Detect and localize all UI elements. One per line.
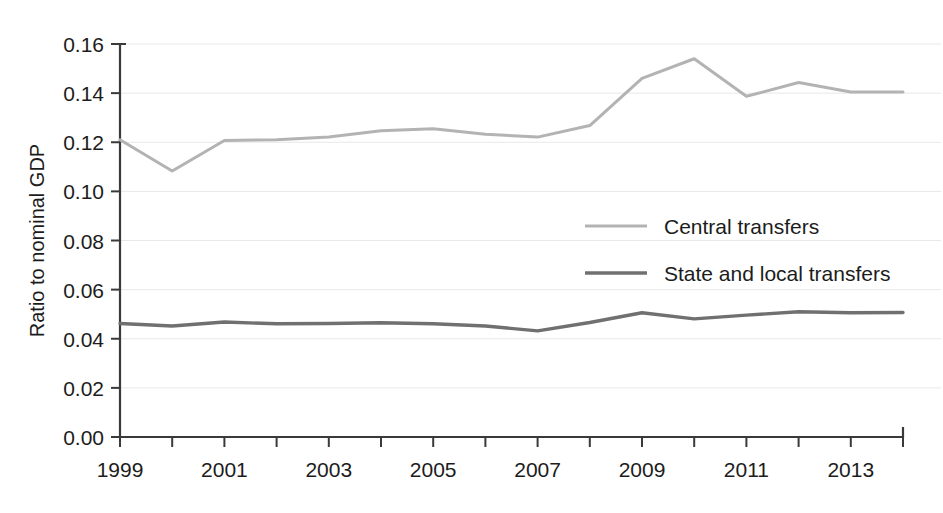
y-axis-title-text: Ratio to nominal GDP — [26, 144, 48, 337]
x-tick-label: 2009 — [619, 458, 666, 481]
series-line-central-transfers — [120, 59, 903, 171]
chart-legend: Central transfersState and local transfe… — [585, 215, 890, 285]
y-tick-label: 0.10 — [63, 180, 104, 203]
y-axis-title: Ratio to nominal GDP — [26, 144, 48, 337]
x-tick-label: 2013 — [827, 458, 874, 481]
y-tick-label: 0.04 — [63, 328, 104, 351]
y-tick-label: 0.06 — [63, 279, 104, 302]
y-tick-label: 0.12 — [63, 131, 104, 154]
chart-figure: 0.000.020.040.060.080.100.120.140.16 199… — [0, 0, 943, 513]
y-axis-tick-labels: 0.000.020.040.060.080.100.120.140.16 — [63, 33, 104, 449]
y-tick-label: 0.16 — [63, 33, 104, 56]
x-tick-label: 2007 — [514, 458, 561, 481]
legend-label: Central transfers — [664, 215, 819, 238]
axes — [111, 44, 903, 447]
x-tick-label: 2005 — [410, 458, 457, 481]
x-tick-label: 2003 — [305, 458, 352, 481]
series-line-state-and-local-transfers — [120, 312, 903, 331]
y-tick-label: 0.14 — [63, 82, 104, 105]
x-tick-label: 2011 — [724, 458, 769, 481]
x-tick-label: 1999 — [97, 458, 144, 481]
y-tick-label: 0.08 — [63, 230, 104, 253]
y-tick-label: 0.02 — [63, 377, 104, 400]
x-axis-line — [120, 427, 903, 437]
x-tick-label: 2001 — [201, 458, 248, 481]
y-tick-label: 0.00 — [63, 426, 104, 449]
line-chart-canvas: 0.000.020.040.060.080.100.120.140.16 199… — [0, 0, 943, 513]
x-axis-tick-labels: 19992001200320052007200920112013 — [97, 458, 875, 481]
legend-label: State and local transfers — [664, 262, 890, 285]
